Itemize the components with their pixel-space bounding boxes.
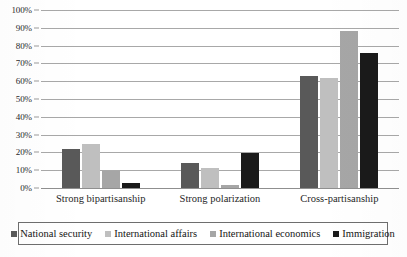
legend-label: International affairs	[114, 228, 197, 240]
y-axis-tick-label: 20%	[16, 148, 32, 157]
y-axis-tick-label: 10%	[16, 166, 32, 175]
x-axis-category-label: Strong bipartisanship	[41, 192, 160, 205]
legend-swatch-icon	[105, 231, 111, 237]
legend-swatch-icon	[333, 231, 339, 237]
legend-swatch-icon	[210, 231, 216, 237]
bar	[181, 163, 199, 188]
y-axis-tick-mark	[34, 170, 39, 171]
y-axis-tick-label: 80%	[16, 41, 32, 50]
y-axis: 100%90%80%70%60%50%40%30%20%10%0%	[0, 0, 36, 200]
bar-chart: 100%90%80%70%60%50%40%30%20%10%0% Strong…	[0, 0, 407, 257]
legend-swatch-icon	[11, 231, 17, 237]
legend-item[interactable]: Immigration	[333, 228, 395, 240]
y-axis-tick-label: 90%	[16, 23, 32, 32]
y-axis-tick-mark	[34, 63, 39, 64]
y-axis-tick-label: 30%	[16, 130, 32, 139]
x-axis-category-label: Cross-partisanship	[280, 192, 399, 205]
legend-label: Immigration	[342, 228, 395, 240]
y-axis-tick-label: 100%	[11, 6, 32, 15]
bar	[360, 53, 378, 188]
bar	[300, 76, 318, 188]
legend-label: International economics	[219, 228, 320, 240]
y-axis-tick-label: 0%	[20, 184, 32, 193]
y-axis-tick-mark	[34, 116, 39, 117]
legend-item[interactable]: International affairs	[105, 228, 197, 240]
y-axis-tick-mark	[34, 134, 39, 135]
bar	[82, 144, 100, 189]
bar	[62, 149, 80, 188]
bar	[221, 185, 239, 188]
x-axis-category-labels: Strong bipartisanshipStrong polarization…	[41, 190, 399, 212]
y-axis-tick-label: 40%	[16, 112, 32, 121]
y-axis-tick-mark	[34, 81, 39, 82]
axis-baseline	[41, 188, 399, 189]
bar	[340, 31, 358, 188]
bar	[122, 183, 140, 188]
y-axis-tick-mark	[34, 10, 39, 11]
y-axis-tick-mark	[34, 152, 39, 153]
bars-layer	[41, 10, 399, 188]
bar	[241, 153, 259, 188]
y-axis-tick-mark	[34, 99, 39, 100]
x-axis-category-label: Strong polarization	[160, 192, 279, 205]
y-axis-tick-label: 70%	[16, 59, 32, 68]
bar	[102, 171, 120, 188]
y-axis-tick-label: 50%	[16, 95, 32, 104]
bar	[201, 168, 219, 188]
y-axis-tick-mark	[34, 45, 39, 46]
legend-item[interactable]: National security	[11, 228, 92, 240]
plot-area: 100%90%80%70%60%50%40%30%20%10%0%	[0, 0, 407, 200]
legend-label: National security	[20, 228, 92, 240]
bar	[320, 78, 338, 188]
chart-legend: National securityInternational affairsIn…	[18, 222, 388, 245]
y-axis-tick-mark	[34, 27, 39, 28]
legend-item[interactable]: International economics	[210, 228, 320, 240]
y-axis-tick-label: 60%	[16, 77, 32, 86]
y-axis-tick-mark	[34, 188, 39, 189]
